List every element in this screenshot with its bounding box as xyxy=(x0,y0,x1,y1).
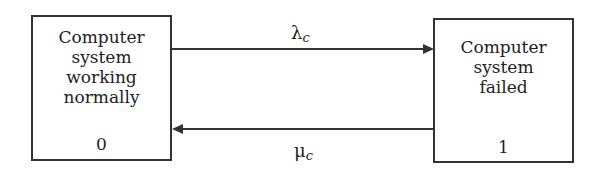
state-0-label: Computer system working normally xyxy=(33,27,170,107)
state-1-label: Computer system failed xyxy=(435,37,572,97)
arrowhead-left-icon xyxy=(172,124,183,134)
failure-rate-label: λc xyxy=(291,22,310,45)
repair-rate-label: μc xyxy=(294,140,313,163)
state-1-line-3: failed xyxy=(435,77,572,97)
state-0-line-4: normally xyxy=(33,87,170,107)
transition-1-to-0-line xyxy=(182,128,433,130)
repair-rate-symbol: μ xyxy=(294,140,306,161)
state-1-line-2: system xyxy=(435,57,572,77)
state-1-line-1: Computer xyxy=(435,37,572,57)
state-1-number: 1 xyxy=(435,137,572,157)
failure-rate-subscript: c xyxy=(302,30,309,45)
state-0-line-1: Computer xyxy=(33,27,170,47)
repair-rate-subscript: c xyxy=(306,148,313,163)
state-0-line-2: system xyxy=(33,47,170,67)
failure-rate-symbol: λ xyxy=(291,22,302,43)
transition-0-to-1-line xyxy=(172,48,423,50)
state-0-number: 0 xyxy=(33,134,170,154)
arrowhead-right-icon xyxy=(423,44,434,54)
state-0-line-3: working xyxy=(33,67,170,87)
state-0-box: Computer system working normally 0 xyxy=(31,15,172,161)
state-1-box: Computer system failed 1 xyxy=(433,18,574,163)
